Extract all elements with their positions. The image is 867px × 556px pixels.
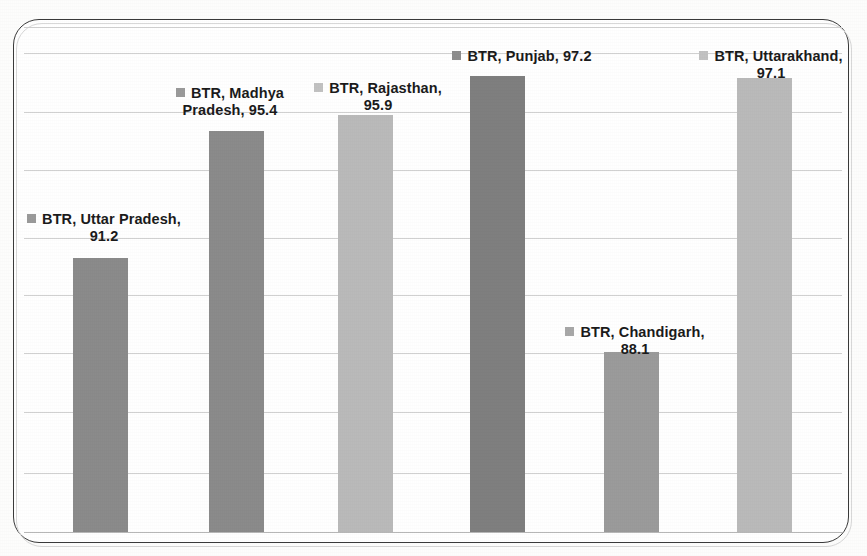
bar-chandigarh — [604, 352, 659, 532]
plot-area: BTR, Uttar Pradesh, 91.2 BTR, Madhya Pra… — [0, 0, 867, 556]
data-label-uttarakhand: BTR, Uttarakhand, 97.1 — [676, 30, 866, 83]
gridline — [24, 295, 842, 296]
gridline — [24, 170, 842, 171]
bar-rajasthan — [338, 115, 393, 532]
legend-marker-icon — [27, 214, 36, 223]
bar-uttarakhand — [737, 78, 792, 532]
bar-uttar-pradesh — [73, 258, 128, 532]
bar-chart-figure: BTR, Uttar Pradesh, 91.2 BTR, Madhya Pra… — [0, 0, 867, 556]
data-label-punjab: BTR, Punjab, 97.2 — [422, 30, 622, 65]
legend-marker-icon — [314, 83, 323, 92]
data-label-chandigarh: BTR, Chandigarh, 88.1 — [540, 306, 730, 359]
gridline — [24, 27, 842, 28]
bar-punjab — [470, 76, 525, 532]
bar-madhya-pradesh — [209, 131, 264, 532]
legend-marker-icon — [699, 51, 708, 60]
data-label-uttar-pradesh: BTR, Uttar Pradesh, 91.2 — [14, 193, 194, 246]
axis-baseline — [24, 532, 842, 533]
data-label-text: BTR, Chandigarh, 88.1 — [580, 324, 704, 358]
data-label-text: BTR, Madhya Pradesh, 95.4 — [183, 85, 284, 119]
data-label-text: BTR, Uttar Pradesh, 91.2 — [42, 211, 181, 245]
legend-marker-icon — [565, 327, 574, 336]
gridline — [24, 473, 842, 474]
gridline — [24, 412, 842, 413]
data-label-text: BTR, Rajasthan, 95.9 — [329, 80, 442, 114]
data-label-rajasthan: BTR, Rajasthan, 95.9 — [293, 62, 463, 115]
data-label-text: BTR, Uttarakhand, 97.1 — [714, 48, 842, 82]
legend-marker-icon — [176, 88, 185, 97]
legend-marker-icon — [452, 51, 461, 60]
data-label-text: BTR, Punjab, 97.2 — [467, 48, 591, 64]
